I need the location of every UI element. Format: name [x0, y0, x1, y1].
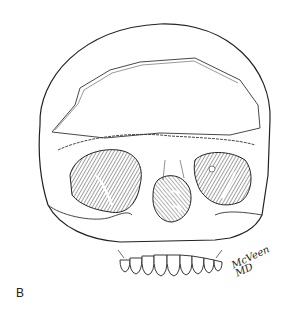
teeth: [120, 255, 222, 276]
panel-label: B: [16, 286, 24, 300]
